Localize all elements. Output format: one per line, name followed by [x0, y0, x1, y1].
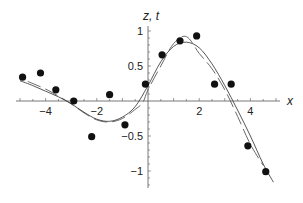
data-point — [262, 168, 269, 175]
data-point — [244, 142, 251, 149]
y-tick-label: −1 — [130, 165, 143, 177]
data-point — [193, 32, 200, 39]
data-point — [106, 91, 113, 98]
data-point — [228, 81, 235, 88]
y-tick-label: 1 — [137, 25, 143, 37]
y-tick-label: −0.5 — [121, 130, 143, 142]
axis-labels: −4−22410.5−0.5−1xz, t — [39, 9, 294, 177]
axes — [16, 26, 280, 188]
y-axis-label: z, t — [142, 9, 160, 23]
x-tick-label: 2 — [196, 105, 202, 117]
data-point — [121, 121, 128, 128]
scatter-plot: −4−22410.5−0.5−1xz, t — [0, 0, 303, 203]
data-point — [19, 74, 26, 81]
y-tick-label: 0.5 — [128, 60, 143, 72]
data-point — [70, 97, 77, 104]
data-point — [52, 86, 59, 93]
data-point — [176, 37, 183, 44]
data-point — [88, 133, 95, 140]
data-point — [37, 69, 44, 76]
x-tick-label: 4 — [247, 105, 253, 117]
x-tick-label: −4 — [39, 105, 52, 117]
chart-container: −4−22410.5−0.5−1xz, t — [0, 0, 303, 203]
fit-curves — [20, 36, 273, 182]
data-point — [142, 81, 149, 88]
x-axis-label: x — [286, 94, 294, 108]
data-point — [158, 51, 165, 58]
data-point — [211, 81, 218, 88]
x-tick-label: −2 — [91, 105, 104, 117]
